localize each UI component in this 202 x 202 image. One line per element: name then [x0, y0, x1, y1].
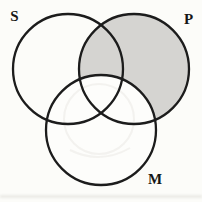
scan-smudge [0, 195, 202, 198]
venn-diagram: S P M [0, 0, 202, 202]
label-s: S [10, 8, 18, 24]
label-p: P [184, 11, 193, 27]
venn-svg: S P M [0, 0, 202, 202]
label-m: M [148, 171, 162, 187]
